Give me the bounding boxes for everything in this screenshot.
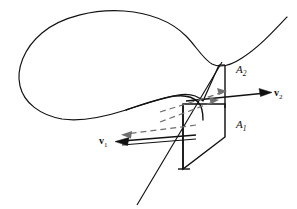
tube-throat-fold (126, 96, 203, 120)
figure-canvas: A2 A1 v2 v1 (0, 0, 297, 209)
label-velocity-2: v2 (274, 88, 283, 101)
label-area-2: A2 (236, 64, 246, 78)
dashed-projection-left (126, 125, 196, 134)
label-velocity-2-subscript: 2 (279, 93, 283, 101)
dashed-arrow-head-left (121, 131, 132, 139)
stream-tube-diagram (0, 0, 297, 209)
label-velocity-1: v1 (99, 136, 108, 149)
label-area-1-subscript: 1 (243, 124, 247, 133)
diagonal-axis-line (137, 62, 222, 205)
stream-tube-outline (19, 11, 287, 120)
v2-arrow-head (259, 89, 272, 97)
area-A1-parallelogram (183, 104, 225, 169)
label-area-1-letter: A (236, 118, 243, 130)
label-area-2-letter: A (236, 63, 243, 75)
label-area-2-subscript: 2 (243, 69, 247, 78)
label-area-1: A1 (236, 119, 246, 133)
label-velocity-1-subscript: 1 (104, 141, 108, 149)
